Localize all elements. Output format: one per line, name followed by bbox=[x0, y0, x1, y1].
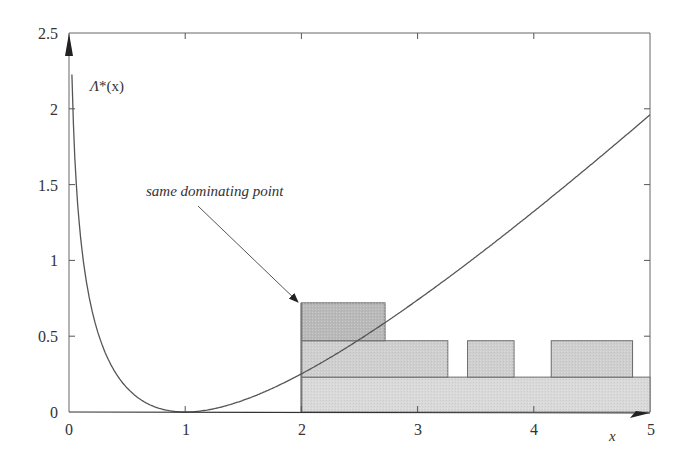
x-tick-labels: 0 1 2 3 4 5 bbox=[65, 421, 655, 438]
dominating-rectangle bbox=[468, 341, 514, 377]
rate-function-chart: 0 1 2 3 4 5 0 0.5 1 1.5 2 2.5 Λ*(x) x sa… bbox=[0, 0, 689, 465]
x-axis-label: x bbox=[608, 428, 616, 444]
x-tick-3: 3 bbox=[414, 421, 422, 438]
y-axis-arrow-icon bbox=[65, 33, 73, 56]
annotation-text: same dominating point bbox=[146, 183, 284, 199]
y-tick-labels: 0 0.5 1 1.5 2 2.5 bbox=[38, 25, 58, 421]
y-tick-1-5: 1.5 bbox=[38, 177, 58, 194]
dominating-rectangle bbox=[301, 377, 650, 412]
y-tick-1: 1 bbox=[50, 252, 58, 269]
dominating-rectangle bbox=[551, 341, 632, 377]
y-tick-2-5: 2.5 bbox=[38, 25, 58, 42]
x-tick-4: 4 bbox=[530, 421, 538, 438]
dominating-rectangle bbox=[301, 341, 447, 377]
x-tick-1: 1 bbox=[182, 421, 190, 438]
annotation-arrow bbox=[198, 206, 298, 302]
y-axis-label: Λ*(x) bbox=[88, 78, 124, 95]
x-tick-0: 0 bbox=[65, 421, 73, 438]
y-tick-2: 2 bbox=[50, 101, 58, 118]
dominating-rectangle bbox=[301, 303, 385, 341]
y-tick-0-5: 0.5 bbox=[38, 328, 58, 345]
y-tick-0: 0 bbox=[50, 404, 58, 421]
x-tick-5: 5 bbox=[647, 421, 655, 438]
x-tick-2: 2 bbox=[298, 421, 306, 438]
dominating-set-rectangles bbox=[301, 303, 650, 412]
